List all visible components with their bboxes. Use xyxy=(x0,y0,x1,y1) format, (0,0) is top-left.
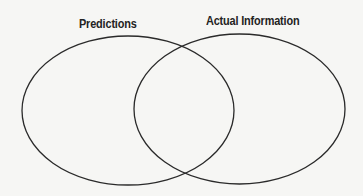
actual-information-label: Actual Information xyxy=(206,14,299,27)
venn-svg xyxy=(0,0,363,196)
predictions-label: Predictions xyxy=(79,17,137,30)
actual-information-ellipse xyxy=(134,34,345,184)
predictions-ellipse xyxy=(22,36,234,185)
venn-diagram: Predictions Actual Information xyxy=(0,0,363,196)
